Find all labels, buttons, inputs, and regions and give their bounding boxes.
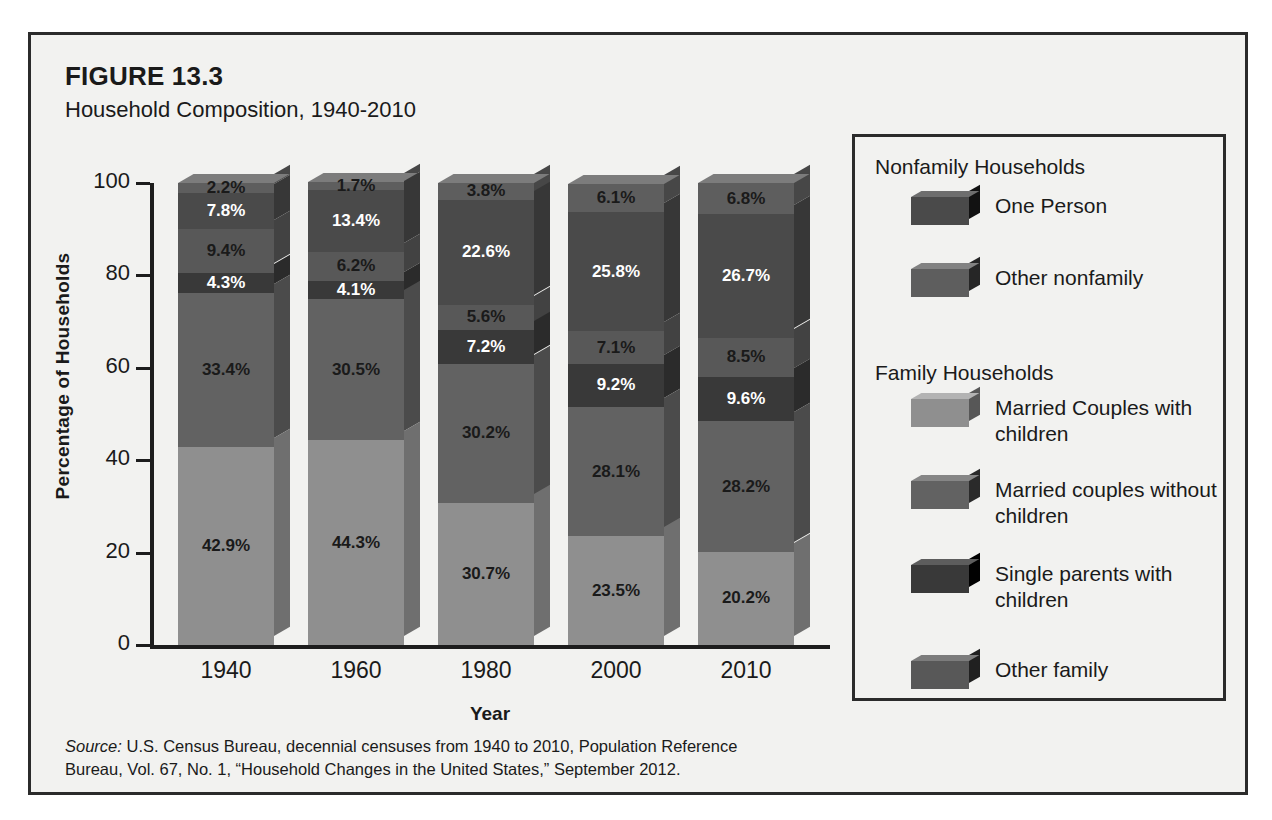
segment-side-face bbox=[664, 194, 680, 322]
y-axis-line bbox=[150, 183, 154, 648]
segment-side-face bbox=[404, 172, 420, 243]
bar-segment[interactable]: 1.7% bbox=[308, 182, 404, 190]
bar-segment[interactable]: 2.2% bbox=[178, 183, 274, 193]
bar-segment[interactable]: 30.7% bbox=[438, 503, 534, 645]
segment-side-face bbox=[404, 281, 420, 431]
bar-segment[interactable]: 30.5% bbox=[308, 299, 404, 440]
bar-column-1940[interactable]: 2.2%7.8%9.4%4.3%33.4%42.9% bbox=[178, 183, 274, 645]
bar-segment[interactable]: 7.2% bbox=[438, 330, 534, 363]
swatch-front-face bbox=[911, 661, 969, 689]
bar-segment[interactable]: 6.1% bbox=[568, 184, 664, 212]
y-tick-label-100: 100 bbox=[70, 168, 130, 194]
y-tick-20 bbox=[136, 552, 150, 555]
bar-segment[interactable]: 22.6% bbox=[438, 200, 534, 304]
bar-segment[interactable]: 33.4% bbox=[178, 293, 274, 447]
bar-segment[interactable]: 20.2% bbox=[698, 552, 794, 645]
swatch-side-face bbox=[969, 469, 980, 503]
y-tick-80 bbox=[136, 274, 150, 277]
swatch-front-face bbox=[911, 197, 969, 225]
bar-segment[interactable]: 4.1% bbox=[308, 281, 404, 300]
segment-value-label: 7.2% bbox=[438, 337, 534, 357]
segment-side-face bbox=[274, 274, 290, 438]
y-tick-0 bbox=[136, 644, 150, 647]
segment-value-label: 44.3% bbox=[308, 533, 404, 553]
bar-segment[interactable]: 7.8% bbox=[178, 193, 274, 229]
swatch-top-face bbox=[911, 559, 979, 565]
legend-swatch-icon bbox=[911, 661, 969, 689]
legend-item-label: Other family bbox=[995, 657, 1245, 683]
x-tick-label-1940: 1940 bbox=[161, 657, 291, 684]
segment-side-face bbox=[794, 533, 810, 636]
bar-segment[interactable]: 3.8% bbox=[438, 183, 534, 201]
figure-frame: FIGURE 13.3 Household Composition, 1940-… bbox=[28, 32, 1248, 795]
bar-segment[interactable]: 44.3% bbox=[308, 440, 404, 645]
bar-segment[interactable]: 30.2% bbox=[438, 364, 534, 504]
legend-item-label: Married Couples with children bbox=[995, 395, 1245, 447]
segment-value-label: 6.1% bbox=[568, 188, 664, 208]
segment-value-label: 33.4% bbox=[178, 360, 274, 380]
segment-side-face bbox=[534, 345, 550, 494]
y-tick-label-60: 60 bbox=[70, 353, 130, 379]
bar-segment[interactable]: 26.7% bbox=[698, 214, 794, 337]
x-tick-label-2000: 2000 bbox=[551, 657, 681, 684]
segment-value-label: 1.7% bbox=[308, 176, 404, 196]
bar-column-2010[interactable]: 6.8%26.7%8.5%9.6%28.2%20.2% bbox=[698, 183, 794, 645]
swatch-top-face bbox=[911, 263, 979, 269]
legend-item-label: One Person bbox=[995, 193, 1245, 219]
segment-value-label: 2.2% bbox=[178, 178, 274, 198]
source-note: Source: U.S. Census Bureau, decennial ce… bbox=[65, 735, 765, 781]
bar-segment[interactable]: 13.4% bbox=[308, 190, 404, 252]
bar-segment[interactable]: 6.2% bbox=[308, 252, 404, 281]
y-tick-100 bbox=[136, 182, 150, 185]
bar-segment[interactable]: 23.5% bbox=[568, 536, 664, 645]
bar-segment[interactable]: 28.2% bbox=[698, 421, 794, 551]
segment-value-label: 22.6% bbox=[438, 242, 534, 262]
bar-segment[interactable]: 7.1% bbox=[568, 331, 664, 364]
segment-value-label: 23.5% bbox=[568, 581, 664, 601]
bar-segment[interactable]: 9.4% bbox=[178, 229, 274, 272]
segment-value-label: 13.4% bbox=[308, 211, 404, 231]
segment-value-label: 9.6% bbox=[698, 389, 794, 409]
segment-side-face bbox=[274, 429, 290, 636]
y-tick-label-20: 20 bbox=[70, 538, 130, 564]
segment-value-label: 9.4% bbox=[178, 241, 274, 261]
segment-side-face bbox=[794, 403, 810, 543]
swatch-top-face bbox=[911, 475, 979, 481]
segment-top-face bbox=[698, 174, 810, 183]
bar-segment[interactable]: 6.8% bbox=[698, 183, 794, 214]
bar-segment[interactable]: 25.8% bbox=[568, 212, 664, 331]
bar-segment[interactable]: 28.1% bbox=[568, 407, 664, 537]
x-axis-line bbox=[150, 645, 830, 649]
bar-segment[interactable]: 5.6% bbox=[438, 305, 534, 331]
bar-segment[interactable]: 4.3% bbox=[178, 273, 274, 293]
segment-value-label: 5.6% bbox=[438, 307, 534, 327]
segment-side-face bbox=[664, 388, 680, 527]
bar-segment[interactable]: 8.5% bbox=[698, 338, 794, 377]
segment-value-label: 7.8% bbox=[178, 201, 274, 221]
x-axis-title: Year bbox=[150, 703, 830, 725]
legend-swatch-icon bbox=[911, 565, 969, 593]
bar-column-2000[interactable]: 6.1%25.8%7.1%9.2%28.1%23.5% bbox=[568, 184, 664, 645]
swatch-side-face bbox=[969, 649, 980, 683]
segment-value-label: 7.1% bbox=[568, 338, 664, 358]
legend-item-label: Other nonfamily bbox=[995, 265, 1245, 291]
bar-column-1980[interactable]: 3.8%22.6%5.6%7.2%30.2%30.7% bbox=[438, 183, 534, 645]
segment-value-label: 30.7% bbox=[438, 564, 534, 584]
swatch-top-face bbox=[911, 191, 979, 197]
swatch-side-face bbox=[969, 257, 980, 291]
x-tick-label-2010: 2010 bbox=[681, 657, 811, 684]
legend-swatch-icon bbox=[911, 481, 969, 509]
y-tick-60 bbox=[136, 367, 150, 370]
bar-segment[interactable]: 9.6% bbox=[698, 377, 794, 421]
y-tick-label-0: 0 bbox=[70, 630, 130, 656]
segment-side-face bbox=[404, 422, 420, 636]
legend-heading-nonfamily: Nonfamily Households bbox=[875, 155, 1085, 179]
bar-column-1960[interactable]: 1.7%13.4%6.2%4.1%30.5%44.3% bbox=[308, 182, 404, 645]
segment-value-label: 20.2% bbox=[698, 588, 794, 608]
segment-value-label: 4.1% bbox=[308, 280, 404, 300]
segment-value-label: 42.9% bbox=[178, 536, 274, 556]
bar-segment[interactable]: 9.2% bbox=[568, 364, 664, 407]
legend-swatch-icon bbox=[911, 197, 969, 225]
bar-segment[interactable]: 42.9% bbox=[178, 447, 274, 645]
chart-legend: Nonfamily Households Family Households O… bbox=[852, 134, 1226, 701]
